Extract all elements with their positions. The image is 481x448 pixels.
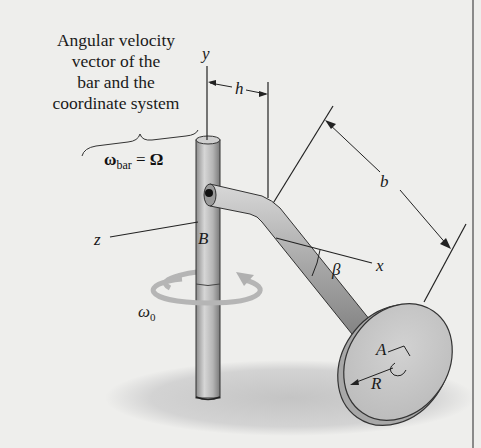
bent-arm <box>210 184 378 344</box>
caption-line: coordinate system <box>26 93 206 114</box>
point-B-label: B <box>198 229 208 248</box>
equals-sign: = <box>136 150 146 169</box>
diagram-figure: Angular velocity vector of the bar and t… <box>0 0 481 448</box>
caption-line: Angular velocity <box>26 30 206 51</box>
caption: Angular velocity vector of the bar and t… <box>26 30 206 114</box>
omega-bar-equation: ωbar = Ω <box>104 150 163 173</box>
point-B-joint <box>205 189 213 197</box>
b-dimension-label: b <box>380 172 389 191</box>
caption-line: bar and the <box>26 72 206 93</box>
h-dimension-label: h <box>235 79 244 98</box>
y-axis-label: y <box>202 44 210 63</box>
omega-0-symbol: ω <box>138 302 150 321</box>
omega-symbol: ω <box>104 150 116 169</box>
R-dimension-label: R <box>371 374 381 393</box>
figure-border <box>472 0 474 448</box>
omega-subscript: bar <box>116 158 131 172</box>
vertical-bar <box>196 140 220 398</box>
omega-0-subscript: 0 <box>150 311 156 323</box>
caption-line: vector of the <box>26 51 206 72</box>
beta-angle-label: β <box>332 260 340 279</box>
point-A-label: A <box>376 340 386 359</box>
x-axis-label: x <box>376 256 384 275</box>
z-axis <box>110 222 198 237</box>
z-axis-label: z <box>94 230 101 249</box>
capital-omega: Ω <box>150 150 164 169</box>
omega-0-label: ω0 <box>138 302 156 323</box>
